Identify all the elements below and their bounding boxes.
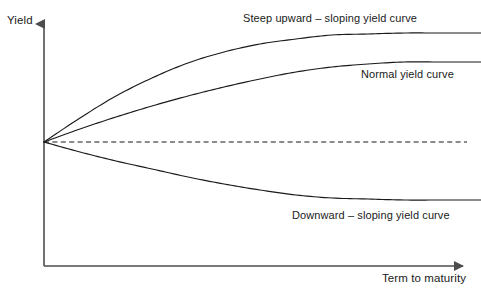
curve-downward-sloping (44, 142, 481, 200)
x-axis-label: Term to maturity (382, 272, 466, 285)
normal-curve-label: Normal yield curve (361, 68, 454, 81)
steep-upward-curve-label: Steep upward – sloping yield curve (243, 12, 417, 25)
yield-curve-plot (0, 0, 481, 298)
curve-steep-upward (44, 33, 481, 142)
downward-curve-label: Downward – sloping yield curve (292, 209, 450, 222)
y-axis-label: Yield (7, 14, 33, 27)
yield-curve-figure: Yield Term to maturity Steep upward – sl… (0, 0, 481, 298)
